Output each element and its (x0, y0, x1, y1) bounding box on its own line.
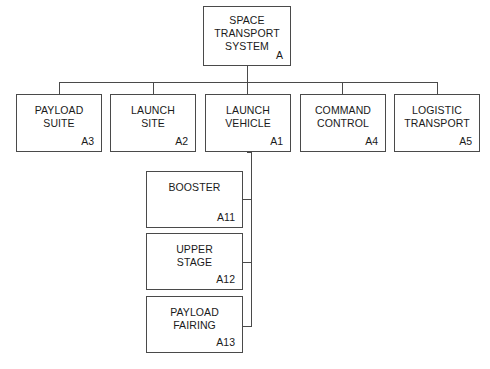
node-title: PAYLOAD FAIRING (147, 297, 242, 332)
node-title: LAUNCH SITE (111, 95, 195, 130)
node-launch-vehicle: LAUNCH VEHICLE A1 (205, 94, 291, 152)
node-code: A2 (175, 135, 188, 147)
node-upper-stage: UPPER STAGE A12 (146, 233, 243, 290)
node-command-control: COMMAND CONTROL A4 (300, 94, 386, 152)
node-title: SPACE TRANSPORT SYSTEM (204, 7, 290, 53)
connector-level2-bus (59, 82, 437, 83)
node-code: A (276, 49, 283, 61)
connector-drop-launch-site (153, 82, 154, 94)
connector-stub-booster (243, 199, 252, 200)
node-space-transport-system: SPACE TRANSPORT SYSTEM A (203, 6, 291, 66)
node-logistic-transport: LOGISTIC TRANSPORT A5 (394, 94, 480, 152)
node-title: UPPER STAGE (147, 234, 242, 269)
node-payload-suite: PAYLOAD SUITE A3 (16, 94, 102, 152)
connector-drop-logistic-transport (437, 82, 438, 94)
connector-drop-command-control (342, 82, 343, 94)
node-title: LAUNCH VEHICLE (206, 95, 290, 130)
node-code: A3 (81, 135, 94, 147)
connector-level3-spine (251, 152, 252, 327)
node-code: A4 (365, 135, 378, 147)
node-launch-site: LAUNCH SITE A2 (110, 94, 196, 152)
connector-stub-upper-stage (243, 262, 252, 263)
wbs-diagram: SPACE TRANSPORT SYSTEM A PAYLOAD SUITE A… (0, 0, 490, 369)
node-code: A1 (270, 135, 283, 147)
node-code: A13 (216, 336, 235, 348)
node-booster: BOOSTER A11 (146, 171, 243, 228)
node-title: BOOSTER (147, 172, 242, 194)
node-title: COMMAND CONTROL (301, 95, 385, 130)
node-code: A12 (216, 273, 235, 285)
connector-drop-payload-suite (59, 82, 60, 94)
connector-stub-payload-fairing (243, 326, 252, 327)
node-title: PAYLOAD SUITE (17, 95, 101, 130)
node-payload-fairing: PAYLOAD FAIRING A13 (146, 296, 243, 353)
node-code: A5 (459, 135, 472, 147)
connector-root-stem (247, 66, 248, 82)
connector-drop-launch-vehicle (247, 82, 248, 94)
node-title: LOGISTIC TRANSPORT (395, 95, 479, 130)
node-code: A11 (217, 211, 235, 223)
